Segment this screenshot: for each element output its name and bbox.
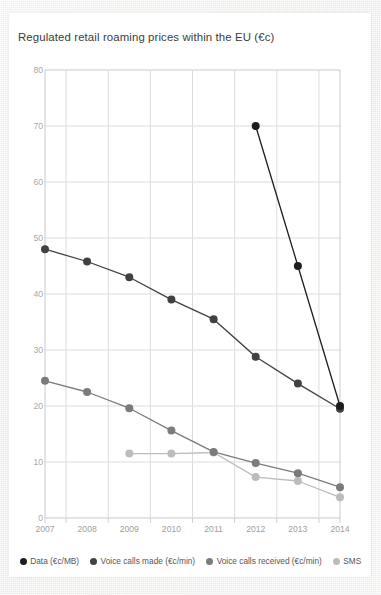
data-point	[336, 493, 344, 501]
data-point	[167, 450, 175, 458]
legend-marker-icon	[20, 558, 27, 565]
legend-label: Voice calls received (€c/min)	[217, 556, 322, 566]
data-point	[252, 473, 260, 481]
data-point	[336, 402, 344, 410]
data-point	[294, 469, 302, 477]
data-point	[167, 296, 175, 304]
data-point	[336, 483, 344, 491]
legend-item-2[interactable]: Voice calls received (€c/min)	[206, 556, 322, 566]
chart-plot	[0, 0, 381, 595]
data-point	[125, 450, 133, 458]
data-point	[83, 258, 91, 266]
x-axis-tick-label: 2013	[288, 524, 307, 534]
data-point	[167, 427, 175, 435]
data-point	[294, 477, 302, 485]
x-axis-tick-label: 2012	[246, 524, 265, 534]
legend-marker-icon	[206, 558, 213, 565]
legend-marker-icon	[90, 558, 97, 565]
data-point	[210, 448, 218, 456]
data-point	[125, 273, 133, 281]
chart-legend: Data (€c/MB)Voice calls made (€c/min)Voi…	[0, 556, 381, 566]
legend-label: SMS	[343, 556, 361, 566]
data-point	[125, 404, 133, 412]
x-axis-tick-label: 2008	[78, 524, 97, 534]
data-point	[41, 377, 49, 385]
legend-label: Voice calls made (€c/min)	[101, 556, 196, 566]
x-axis-tick-label: 2014	[330, 524, 349, 534]
data-point	[252, 353, 260, 361]
legend-item-0[interactable]: Data (€c/MB)	[20, 556, 79, 566]
x-axis-tick-label: 2011	[204, 524, 222, 534]
legend-marker-icon	[333, 558, 340, 565]
x-axis-tick-label: 2009	[120, 524, 139, 534]
x-axis-tick-label: 2007	[35, 524, 54, 534]
data-point	[41, 245, 49, 253]
data-point	[252, 122, 260, 130]
data-point	[294, 262, 302, 270]
data-point	[210, 315, 218, 323]
legend-label: Data (€c/MB)	[30, 556, 79, 566]
data-point	[83, 388, 91, 396]
legend-item-3[interactable]: SMS	[333, 556, 361, 566]
x-axis-tick-label: 2010	[162, 524, 181, 534]
data-point	[252, 459, 260, 467]
legend-item-1[interactable]: Voice calls made (€c/min)	[90, 556, 195, 566]
data-point	[294, 380, 302, 388]
